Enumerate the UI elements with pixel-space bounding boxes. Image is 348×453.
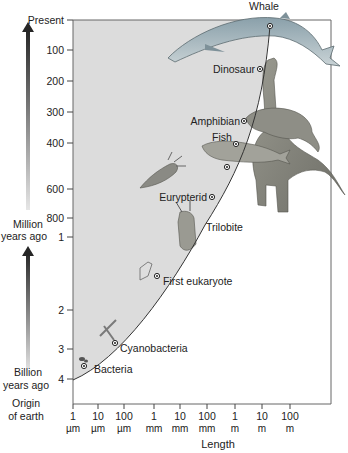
x-tick-100m-unit: m — [286, 423, 294, 434]
x-tick-1um-unit: µm — [66, 423, 80, 434]
x-tick-1um-value: 1 — [70, 410, 76, 422]
label-bacteria: Bacteria — [94, 363, 133, 375]
label-amphibian: Amphibian — [190, 115, 240, 127]
y-tick-present: Present — [28, 14, 64, 26]
y-axis-ticks — [67, 20, 73, 379]
billion-years-arrow — [22, 246, 34, 368]
x-tick-100mm-value: 100 — [198, 410, 216, 422]
x-tick-10mm-unit: mm — [172, 423, 189, 434]
origin-label: Origin — [12, 397, 40, 409]
y-tick-2-billion: 2 — [58, 304, 64, 316]
x-axis-title: Length — [201, 438, 235, 450]
x-tick-100mm-unit: mm — [199, 423, 216, 434]
x-tick-1mm-value: 1 — [151, 410, 157, 422]
label-first-eukaryote: First eukaryote — [163, 275, 233, 287]
y-tick-400: 400 — [46, 137, 64, 149]
y-tick-1-billion: 1 — [58, 231, 64, 243]
billion-label: Billion — [14, 366, 42, 378]
arrow-up-icon — [22, 246, 34, 256]
evolution-size-chart: Present 100 200 300 400 600 800 1 2 3 4 … — [0, 0, 348, 453]
y-tick-600: 600 — [46, 183, 64, 195]
label-trilobite: Trilobite — [206, 221, 243, 233]
label-whale: Whale — [249, 0, 279, 12]
x-axis-ticks — [73, 404, 290, 409]
x-tick-100um-unit: µm — [117, 423, 131, 434]
x-tick-1m-unit: m — [231, 423, 239, 434]
of-earth-label: of earth — [8, 410, 44, 422]
x-tick-10mm-value: 10 — [174, 410, 186, 422]
y-tick-200: 200 — [46, 75, 64, 87]
label-dinosaur: Dinosaur — [213, 63, 256, 75]
x-tick-100m-value: 100 — [281, 410, 299, 422]
million-label: Million — [13, 218, 43, 230]
label-cyanobacteria: Cyanobacteria — [120, 342, 188, 354]
y-tick-100: 100 — [46, 44, 64, 56]
y-tick-300: 300 — [46, 106, 64, 118]
million-years-arrow — [22, 22, 34, 210]
y-tick-3-billion: 3 — [58, 343, 64, 355]
label-fish: Fish — [212, 131, 232, 143]
million-years-ago-label: years ago — [1, 230, 47, 242]
x-tick-1m-value: 1 — [232, 410, 238, 422]
label-eurypterid: Eurypterid — [159, 191, 207, 203]
x-tick-100um-value: 100 — [115, 410, 133, 422]
x-tick-10um-value: 10 — [92, 410, 104, 422]
y-tick-800: 800 — [46, 212, 64, 224]
x-tick-10um-unit: µm — [91, 423, 105, 434]
x-tick-1mm-unit: mm — [146, 423, 163, 434]
x-tick-10m-unit: m — [258, 423, 266, 434]
billion-years-ago-label: years ago — [3, 379, 49, 391]
x-tick-10m-value: 10 — [256, 410, 268, 422]
y-tick-4-billion: 4 — [58, 373, 64, 385]
